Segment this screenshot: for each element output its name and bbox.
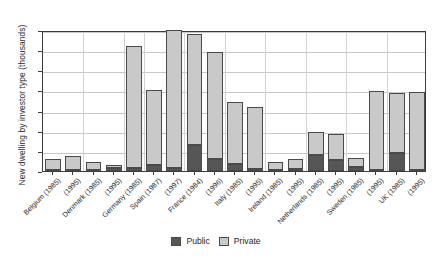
bar-segment-public [369,169,385,171]
bar-segment-private [328,134,344,160]
legend-item-public: Public [171,236,209,246]
bar-segment-public [348,167,364,171]
bar-stack [348,158,364,171]
bar-segment-public [126,168,142,171]
gridline-vertical [83,32,84,171]
legend-item-private: Private [219,236,261,246]
bar-stack [126,46,142,171]
bar-stack [166,30,182,171]
x-axis-tick-mark [72,172,73,175]
gridline-vertical [346,32,347,171]
bar-stack [308,132,324,171]
bar-segment-private [409,92,425,170]
legend-swatch-public-icon [171,237,181,246]
x-axis-tick-mark [133,172,134,175]
bar-stack [207,52,223,171]
bar-stack [268,162,284,171]
x-axis-tick-mark [194,172,195,175]
bar-stack [369,91,385,171]
bar-segment-private [389,93,405,153]
x-axis-tick-mark [113,172,114,175]
gridline-horizontal [43,72,425,73]
bar-segment-public [166,168,182,171]
chart-figure: New dwelling by investor type (thousands… [0,0,432,261]
bar-segment-public [86,169,102,171]
bar-segment-public [45,169,61,171]
x-axis-tick-mark [93,172,94,175]
gridline-vertical [387,32,388,171]
x-axis-tick-mark [234,172,235,175]
gridline-horizontal [43,32,425,33]
bar-segment-public [207,159,223,171]
bar-stack [247,107,263,171]
gridline-vertical [306,32,307,171]
bar-stack [389,93,405,171]
bar-segment-public [187,145,203,171]
bar-segment-public [328,160,344,171]
legend-label-public: Public [186,236,209,246]
bar-segment-private [348,158,364,167]
x-axis-tick-mark [254,172,255,175]
y-axis-title: New dwelling by investor type (thousands… [17,20,27,190]
bar-stack [45,159,61,171]
gridline-horizontal [43,52,425,53]
bar-stack [187,34,203,171]
x-axis-tick-mark [214,172,215,175]
bar-segment-private [227,102,243,164]
bar-stack [86,162,102,171]
bar-segment-public [106,168,122,171]
bar-stack [146,90,162,171]
bar-stack [227,102,243,171]
bar-stack [65,156,81,171]
bar-segment-public [247,169,263,171]
gridline-vertical [184,32,185,171]
x-axis-labels: Belgium (1985)(1995)Denmark (1985)(1995)… [42,172,426,230]
bar-segment-private [308,132,324,155]
gridline-vertical [124,32,125,171]
bar-segment-private [369,91,385,170]
legend-swatch-private-icon [219,237,229,246]
x-axis-tick-mark [295,172,296,175]
x-axis-tick-mark [355,172,356,175]
x-axis-tick-mark [274,172,275,175]
bar-segment-public [308,155,324,171]
bar-stack [409,92,425,171]
bar-segment-public [409,169,425,171]
bar-segment-private [166,30,182,168]
legend-label-private: Private [234,236,261,246]
gridline-vertical [265,32,266,171]
bar-segment-private [288,159,304,170]
x-axis-tick-mark [375,172,376,175]
bar-stack [328,134,344,171]
bar-segment-private [187,34,203,145]
x-axis-tick-mark [335,172,336,175]
bar-segment-private [207,52,223,159]
bar-segment-public [268,169,284,171]
bar-stack [288,159,304,171]
x-axis-tick-mark [315,172,316,175]
x-axis-tick-mark [52,172,53,175]
bar-segment-public [389,153,405,171]
x-axis-tick-mark [396,172,397,175]
bar-stack [106,165,122,171]
plot-area [42,31,426,172]
bar-segment-public [288,169,304,171]
gridline-vertical [225,32,226,171]
gridline-vertical [144,32,145,171]
x-axis-tick-mark [153,172,154,175]
chart-legend: Public Private [0,236,432,246]
bar-segment-public [146,165,162,171]
bar-segment-private [146,90,162,165]
x-axis-tick-mark [173,172,174,175]
bar-segment-private [247,107,263,169]
bar-segment-public [65,169,81,171]
bar-segment-public [227,164,243,171]
bar-segment-private [126,46,142,168]
x-axis-tick-mark [416,172,417,175]
